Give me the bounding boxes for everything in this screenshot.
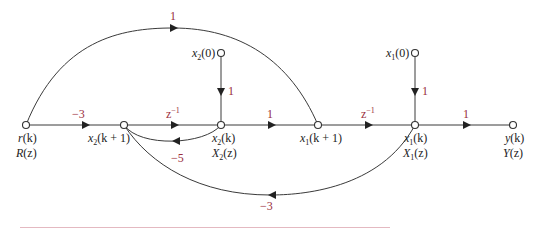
branch-x1k-to-x2k1 [124, 125, 415, 195]
arrow-icon [268, 191, 276, 199]
label-x1k: x1(k) [403, 131, 427, 147]
gain-x2k1-to-x2k: z−1 [166, 106, 180, 121]
label-x2k: x2(k) [211, 131, 235, 147]
node-x1k1 [315, 122, 322, 129]
label-x1k1: x1(k + 1) [299, 131, 342, 147]
arrow-icon [172, 137, 180, 145]
arrow-icon [170, 24, 178, 32]
node-x2k [218, 122, 225, 129]
gain-r-to-x2k1: −3 [72, 107, 85, 121]
node-x10 [412, 50, 419, 57]
arrow-icon [82, 121, 90, 129]
node-x20 [218, 50, 225, 57]
gain-x1k-to-x2k1: −3 [260, 199, 273, 213]
label-r-z: R(z) [15, 146, 37, 160]
label-x2k1: x2(k + 1) [87, 131, 130, 147]
node-x1k [412, 122, 419, 129]
label-y-time: y(k) [504, 131, 524, 145]
label-x20: x2(0) [191, 46, 215, 62]
node-r [23, 122, 30, 129]
label-X2z: X2(z) [211, 146, 237, 162]
gain-r-to-x1k1: 1 [170, 9, 176, 23]
node-x2k1 [121, 122, 128, 129]
label-r-time: r(k) [18, 131, 37, 145]
arrow-icon [268, 121, 276, 129]
label-y-z: Y(z) [503, 146, 523, 160]
arrow-icon [411, 88, 419, 96]
label-X1z: X1(z) [402, 146, 428, 162]
gain-x1k-to-y: 1 [463, 107, 469, 121]
arrow-icon [217, 88, 225, 96]
gain-x20-to-x2k: 1 [228, 84, 234, 98]
arrow-icon [171, 121, 179, 129]
gain-x2k-to-x1k1: 1 [267, 107, 273, 121]
arrow-icon [463, 121, 471, 129]
gain-x2k-to-x2k1: −5 [171, 151, 184, 165]
signal-flow-graph: −3 z−1 1 z−1 1 1 1 1 −5 −3 r(k) R(z) x2(… [0, 0, 538, 229]
arrow-icon [365, 121, 373, 129]
gain-x1k1-to-x1k: z−1 [361, 106, 375, 121]
node-y [510, 122, 517, 129]
gain-x10-to-x1k: 1 [422, 84, 428, 98]
label-x10: x1(0) [385, 46, 409, 62]
